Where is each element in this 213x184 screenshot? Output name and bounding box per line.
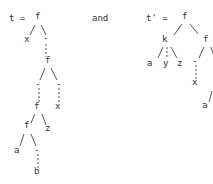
tree-node: x [55,102,60,111]
tree-node: x [24,35,29,44]
tree-node: - [192,57,197,66]
tree-node: - [43,34,48,43]
tree-node: y [163,59,168,68]
tree-edges [0,0,213,184]
tree-node: f [35,12,40,21]
tree-node: - [35,80,40,89]
tree-node: f [45,56,50,65]
tree-node: f [24,121,29,130]
tree-node: z [45,124,50,133]
tree-node: a [202,101,207,110]
tree-node: - [56,80,61,89]
tree-node: a [147,59,152,68]
tree-node: f [34,102,39,111]
tree-node: k [162,35,167,44]
tree-node: x [192,78,197,87]
tree-node: - [34,146,39,155]
tree-node: z [177,59,182,68]
tree-node: f [182,12,187,21]
tree-node: f [203,35,208,44]
tree-node: b [34,167,39,176]
tree-node: a [14,146,19,155]
